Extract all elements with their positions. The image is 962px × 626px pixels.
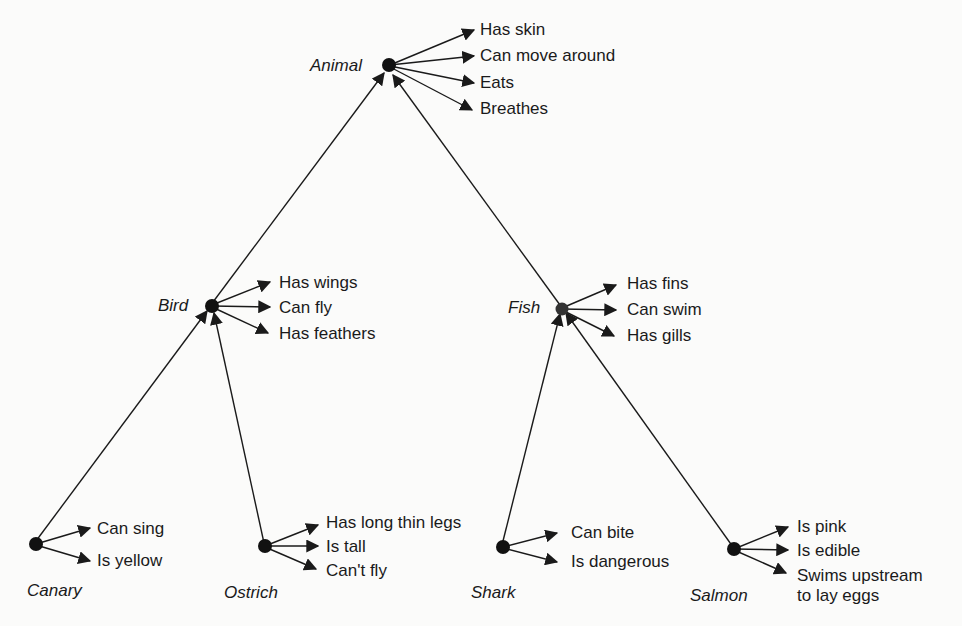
edge-canary-bird: [36, 311, 207, 541]
property-label: Has wings: [279, 273, 357, 293]
property-label: Breathes: [480, 99, 548, 119]
property-label: to lay eggs: [797, 586, 879, 606]
property-label: Has long thin legs: [326, 513, 461, 533]
arrow-icon: [503, 533, 557, 547]
node-label-fish: Fish: [508, 298, 540, 318]
node-label-ostrich: Ostrich: [224, 583, 278, 603]
property-label: Has fins: [627, 274, 688, 294]
arrow-icon: [562, 309, 616, 310]
node-dot-bird: [205, 299, 219, 313]
property-label: Can fly: [279, 298, 332, 318]
arrow-icon: [390, 30, 474, 65]
property-label: Has feathers: [279, 324, 375, 344]
arrow-icon: [212, 307, 268, 333]
node-label-salmon: Salmon: [690, 586, 748, 606]
property-label: Can sing: [97, 519, 164, 539]
node-label-animal: Animal: [310, 56, 362, 76]
node-label-shark: Shark: [471, 583, 515, 603]
property-label: Can't fly: [326, 561, 387, 581]
property-label: Is tall: [326, 537, 366, 557]
edge-salmon-fish: [566, 313, 733, 547]
arrow-icon: [562, 310, 614, 336]
node-dot-animal: [382, 58, 396, 72]
arrow-icon: [390, 66, 474, 83]
property-label: Has gills: [627, 326, 691, 346]
property-label: Is edible: [797, 541, 860, 561]
arrow-icon: [265, 547, 316, 569]
arrow-icon: [562, 285, 616, 308]
node-label-canary: Canary: [27, 581, 82, 601]
arrow-icon: [36, 545, 90, 561]
arrow-icon: [734, 527, 788, 549]
property-label: Is yellow: [97, 551, 162, 571]
arrow-icon: [212, 282, 270, 305]
arrow-icon: [503, 548, 557, 562]
property-label: Is pink: [797, 517, 846, 537]
node-dot-canary: [29, 537, 43, 551]
edge-shark-fish: [502, 314, 560, 545]
property-label: Swims upstream: [797, 566, 923, 586]
edge-bird-animal: [213, 73, 384, 302]
property-label: Has skin: [480, 20, 545, 40]
arrow-icon: [265, 525, 318, 546]
node-dot-fish: [556, 303, 569, 316]
node-dot-ostrich: [258, 539, 272, 553]
property-label: Can swim: [627, 300, 702, 320]
property-label: Is dangerous: [571, 552, 669, 572]
property-label: Can move around: [480, 46, 615, 66]
arrow-icon: [734, 549, 788, 550]
arrow-icon: [734, 550, 786, 573]
node-label-bird: Bird: [158, 296, 188, 316]
property-label: Can bite: [571, 523, 634, 543]
node-dot-salmon: [727, 542, 741, 556]
node-dot-shark: [496, 540, 510, 554]
property-label: Eats: [480, 73, 514, 93]
arrow-icon: [212, 306, 270, 307]
edge-ostrich-bird: [214, 313, 264, 543]
